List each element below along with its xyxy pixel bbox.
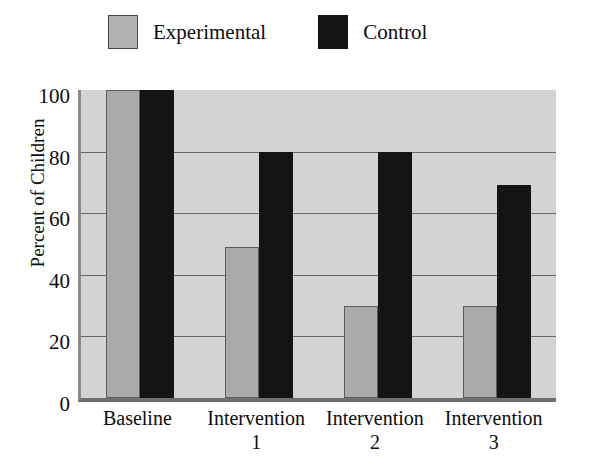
y-tick-60: 60 [20, 209, 70, 230]
bar-control-4 [497, 185, 531, 398]
bar-chart: Percent of Children 100806040200 Baselin… [0, 62, 616, 471]
x-tick-1: Baseline [78, 406, 197, 430]
x-axis-tick-labels: BaselineIntervention 1Intervention 2Inte… [78, 406, 553, 468]
x-tick-2: Intervention 1 [197, 406, 316, 454]
y-tick-80: 80 [20, 148, 70, 169]
bar-control-2 [259, 152, 293, 398]
bar-control-3 [378, 152, 412, 398]
y-tick-100: 100 [20, 86, 70, 107]
y-axis-tick-labels: 100806040200 [20, 62, 70, 402]
legend-entry-experimental: Experimental [108, 15, 266, 49]
bar-experimental-3 [344, 306, 378, 398]
y-tick-0: 0 [20, 394, 70, 415]
bar-experimental-4 [463, 306, 497, 398]
bar-experimental-1 [106, 90, 140, 398]
legend-swatch-experimental-icon [108, 15, 138, 49]
legend-entry-control: Control [318, 15, 427, 49]
legend-swatch-control-icon [318, 15, 348, 49]
bar-control-1 [140, 90, 174, 398]
x-tick-3: Intervention 2 [316, 406, 435, 454]
x-tick-4: Intervention 3 [434, 406, 553, 454]
plot-area [78, 90, 556, 402]
bar-experimental-2 [225, 247, 259, 398]
legend-label-control: Control [363, 22, 427, 43]
y-tick-40: 40 [20, 271, 70, 292]
y-tick-20: 20 [20, 332, 70, 353]
legend-label-experimental: Experimental [153, 22, 266, 43]
chart-legend: Experimental Control [0, 8, 616, 56]
